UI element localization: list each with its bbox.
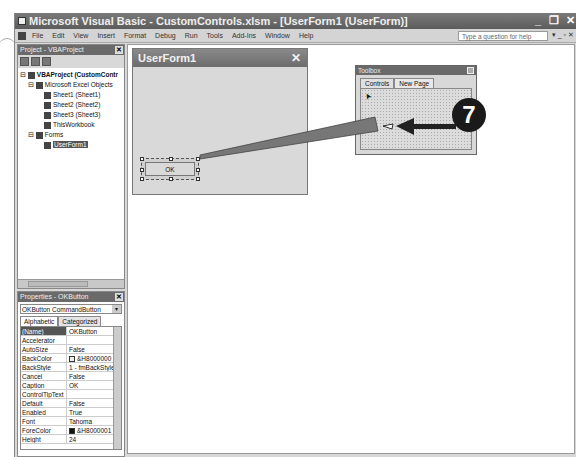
- menu-tools[interactable]: Tools: [207, 32, 223, 39]
- property-row-autosize[interactable]: AutoSizeFalse: [21, 345, 121, 354]
- menu-insert[interactable]: Insert: [97, 32, 115, 39]
- tab-new-page[interactable]: New Page: [394, 78, 434, 88]
- resize-handle[interactable]: [169, 157, 173, 161]
- mdi-controls[interactable]: ▾ _ ▫ ✕: [552, 31, 574, 39]
- tree-node-excel-objects[interactable]: ⊟ Microsoft Excel Objects: [20, 80, 124, 90]
- ok-button-control[interactable]: OK: [141, 158, 199, 180]
- properties-title: Properties - OKButton: [20, 293, 88, 300]
- menu-view[interactable]: View: [73, 32, 88, 39]
- property-key: Enabled: [21, 408, 67, 416]
- tab-alphabetic[interactable]: Alphabetic: [20, 316, 58, 326]
- property-row-forecolor[interactable]: ForeColor&H8000001: [21, 426, 121, 435]
- property-row-default[interactable]: DefaultFalse: [21, 399, 121, 408]
- collapse-icon[interactable]: ⊟: [28, 81, 34, 88]
- menu-help[interactable]: Help: [299, 32, 313, 39]
- menu-debug[interactable]: Debug: [155, 32, 176, 39]
- toolbox-title: Toolbox: [358, 67, 380, 74]
- minimize-button[interactable]: _: [531, 14, 545, 27]
- property-key: Default: [21, 399, 67, 407]
- property-key: Caption: [21, 381, 67, 389]
- help-search-input[interactable]: Type a question for help: [458, 31, 548, 41]
- vbe-app-icon: [18, 17, 26, 25]
- pointer-tool-icon[interactable]: ➤: [363, 91, 374, 102]
- menu-edit[interactable]: Edit: [52, 32, 64, 39]
- resize-handle[interactable]: [196, 157, 200, 161]
- folder-icon: [36, 132, 43, 139]
- tree-node-sheet3[interactable]: Sheet3 (Sheet3): [20, 110, 124, 120]
- tab-controls[interactable]: Controls: [360, 78, 394, 88]
- color-swatch: [69, 428, 75, 434]
- toggle-folders-button[interactable]: [42, 57, 51, 66]
- property-key: Cancel: [21, 372, 67, 380]
- resize-handle[interactable]: [140, 177, 144, 181]
- close-icon[interactable]: ✕: [115, 46, 123, 54]
- property-row-backcolor[interactable]: BackColor&H8000000: [21, 354, 121, 363]
- tree-node-thisworkbook[interactable]: ThisWorkbook: [20, 120, 124, 130]
- sheet-icon: [44, 92, 51, 99]
- menu-add-ins[interactable]: Add-Ins: [232, 32, 256, 39]
- property-row-name[interactable]: (Name)OKButton: [21, 327, 121, 336]
- ok-button-caption: OK: [145, 162, 195, 176]
- sheet-icon: [44, 112, 51, 119]
- property-key: Font: [21, 417, 67, 425]
- property-row-height[interactable]: Height24: [21, 435, 121, 444]
- tree-node-sheet2[interactable]: Sheet2 (Sheet2): [20, 100, 124, 110]
- document-icon[interactable]: [18, 32, 26, 40]
- folder-icon: [36, 82, 43, 89]
- project-tree: ⊟ VBAProject (CustomContr ⊟ Microsoft Ex…: [18, 68, 124, 150]
- sheet-icon: [44, 102, 51, 109]
- userform-title: UserForm1: [138, 52, 196, 64]
- chevron-down-icon[interactable]: ▾: [112, 305, 121, 313]
- property-key: ControlTipText: [21, 390, 67, 398]
- close-icon[interactable]: [467, 67, 474, 74]
- view-code-button[interactable]: [20, 57, 29, 66]
- color-swatch: [69, 356, 75, 362]
- horizontal-scrollbar[interactable]: [18, 279, 124, 288]
- tree-node-sheet1[interactable]: Sheet1 (Sheet1): [20, 90, 124, 100]
- close-button[interactable]: ✕: [563, 14, 576, 27]
- project-explorer: Project - VBAProject ✕ ⊟ VBAProject (Cus…: [17, 44, 125, 289]
- menu-file[interactable]: File: [32, 32, 43, 39]
- property-row-backstyle[interactable]: BackStyle1 - fmBackStyle: [21, 363, 121, 372]
- menu-run[interactable]: Run: [185, 32, 198, 39]
- object-selector[interactable]: OKButton CommandButton ▾: [20, 304, 122, 314]
- property-row-font[interactable]: FontTahoma: [21, 417, 121, 426]
- vbe-window: Microsoft Visual Basic - CustomControls.…: [14, 13, 576, 457]
- resize-handle[interactable]: [140, 168, 144, 172]
- form-icon: [44, 142, 51, 149]
- tree-node-vbaproject[interactable]: ⊟ VBAProject (CustomContr: [20, 70, 124, 80]
- close-icon[interactable]: ✕: [291, 49, 301, 67]
- userform-designer[interactable]: UserForm1 ✕ OK: [132, 48, 308, 195]
- property-row-accelerator[interactable]: Accelerator: [21, 336, 121, 345]
- restore-button[interactable]: ❐: [547, 14, 561, 27]
- project-icon: [28, 72, 35, 79]
- project-toolbar: [18, 55, 124, 68]
- menu-window[interactable]: Window: [265, 32, 290, 39]
- resize-handle[interactable]: [169, 177, 173, 181]
- view-object-button[interactable]: [31, 57, 40, 66]
- resize-handle[interactable]: [140, 157, 144, 161]
- tree-node-userform1[interactable]: UserForm1: [20, 140, 124, 150]
- property-row-enabled[interactable]: EnabledTrue: [21, 408, 121, 417]
- property-row-caption[interactable]: CaptionOK: [21, 381, 121, 390]
- workbook-icon: [44, 122, 51, 129]
- property-key: Accelerator: [21, 336, 67, 344]
- project-explorer-title: Project - VBAProject: [20, 46, 84, 53]
- collapse-icon[interactable]: ⊟: [28, 131, 34, 138]
- userform-grid[interactable]: OK: [133, 67, 307, 194]
- close-icon[interactable]: ✕: [115, 293, 123, 301]
- resize-handle[interactable]: [196, 168, 200, 172]
- property-row-controltiptext[interactable]: ControlTipText: [21, 390, 121, 399]
- tree-node-forms[interactable]: ⊟ Forms: [20, 130, 124, 140]
- property-row-cancel[interactable]: CancelFalse: [21, 372, 121, 381]
- resize-handle[interactable]: [196, 177, 200, 181]
- design-workspace: UserForm1 ✕ OK Toolbox: [127, 44, 575, 454]
- collapse-icon[interactable]: ⊟: [20, 71, 26, 78]
- property-key: AutoSize: [21, 345, 67, 353]
- vertical-scrollbar[interactable]: [113, 327, 121, 449]
- tab-categorized[interactable]: Categorized: [58, 316, 101, 326]
- scroll-thumb[interactable]: [28, 281, 88, 287]
- properties-grid: (Name)OKButton Accelerator AutoSizeFalse…: [20, 326, 122, 450]
- step-callout-badge: 7: [452, 98, 486, 132]
- menu-format[interactable]: Format: [124, 32, 146, 39]
